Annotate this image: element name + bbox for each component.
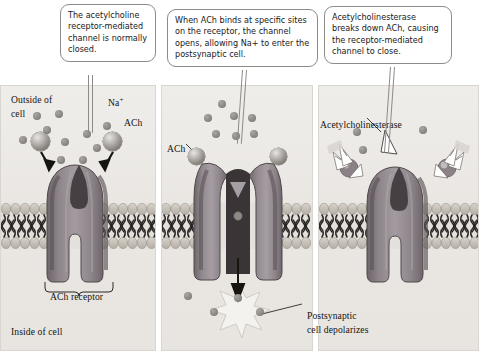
callout-panel-1: The acetylcholine receptor-mediated chan… [60,4,156,62]
sodium-ion [93,144,101,152]
sodium-ion [248,114,256,122]
ach-cleavage-site-left [327,140,363,178]
sodium-ion [83,130,91,138]
sodium-ion [419,126,427,134]
sodium-ion [218,100,226,108]
sodium-ion [103,122,111,130]
label-ach-panel2: ACh [167,143,185,154]
panel-2-open-channel [161,85,313,351]
sodium-ion [250,130,258,138]
ach-receptor-closing-panel3 [367,167,426,282]
sodium-ion [184,292,192,300]
sodium-ion [55,110,63,118]
acetylcholine-molecule [103,132,122,151]
label-outside-of-cell: Outside of [11,94,52,105]
sodium-ion [33,112,41,120]
label-sodium-text: Na [108,97,119,108]
label-postsynaptic: Postsynaptic [307,310,357,321]
callout-leader-1b [92,75,93,133]
sodium-ion [232,132,240,140]
sodium-ion [204,114,212,122]
acetylcholine-molecule [31,132,50,151]
sodium-ion [57,156,65,164]
sodium-ion [79,156,87,164]
sodium-ion [256,308,264,316]
sodium-ion [212,130,220,138]
sodium-ion [61,138,69,146]
label-sodium: Na+ [108,96,123,108]
callout-panel-2: When ACh binds at specific sites on the … [167,9,318,67]
label-ach-receptor: ACh receptor [50,291,103,302]
label-outside-of-cell-line2: cell [11,108,25,119]
panel-strip [0,85,479,351]
ach-receptor-closed-panel1 [47,165,106,282]
label-ach-panel1: ACh [124,117,142,128]
label-depolarizes: cell depolarizes [307,324,369,335]
sodium-ion [234,294,242,302]
sodium-ion [359,146,367,154]
sodium-ion [230,112,238,120]
callout-panel-3: Acetylcholinesterase breaks down ACh, ca… [324,6,452,64]
sodium-ion [210,308,218,316]
acetylcholine-bound [188,148,205,165]
ach-cleavage-site-right [434,140,470,178]
sodium-ion [19,136,27,144]
callout-leader-1a [88,75,89,133]
label-sodium-charge: + [119,96,123,104]
acetylcholine-bound [270,148,287,165]
acetylcholine-receptor-figure: Outside of cell Na+ ACh ACh receptor Ins… [0,0,479,354]
label-inside-of-cell: Inside of cell [11,326,62,337]
